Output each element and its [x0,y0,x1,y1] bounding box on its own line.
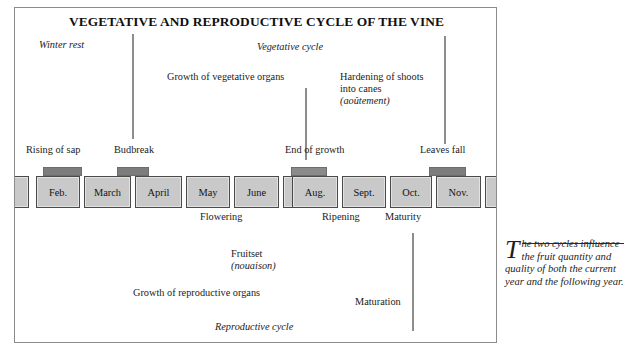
label-hardening-line-1: Hardening of shoots [340,71,424,83]
tab-end-of-growth [291,167,327,176]
month-box-march[interactable]: March [84,176,131,208]
label-growth-of-vegetative-organs: Growth of vegetative organs [167,71,284,83]
pull-quote: T he two cycles influence the fruit quan… [505,238,625,288]
figure-frame: VEGETATIVE AND REPRODUCTIVE CYCLE OF THE… [14,7,497,343]
label-maturation: Maturation [355,296,401,308]
month-box-aug[interactable]: Aug. [292,176,338,208]
pull-quote-rule [522,243,624,244]
month-box-partial-right[interactable] [485,176,497,208]
tab-budbreak [117,167,149,176]
label-ripening: Ripening [322,211,360,223]
label-budbreak: Budbreak [114,144,154,156]
label-flowering: Flowering [200,211,242,223]
month-box-feb[interactable]: Feb. [36,176,80,208]
month-timeline: Feb. March April May June July Aug. Sept… [15,176,497,208]
pull-quote-text: he two cycles influence the fruit quanti… [505,238,624,287]
label-fruitset-nouaison: (nouaison) [231,260,276,272]
month-box-nov[interactable]: Nov. [436,176,481,208]
label-winter-rest: Winter rest [39,39,84,51]
month-box-sept[interactable]: Sept. [342,176,386,208]
month-box-june[interactable]: June [234,176,279,208]
connector-leaves-fall [444,36,446,144]
tab-rising-of-sap [43,167,82,176]
label-leaves-fall: Leaves fall [420,144,465,156]
connector-budbreak [132,34,134,139]
label-fruitset: Fruitset [231,248,262,260]
label-rising-of-sap: Rising of sap [26,144,80,156]
label-reproductive-cycle: Reproductive cycle [215,321,293,333]
tab-leaves-fall [429,167,466,176]
figure-title: VEGETATIVE AND REPRODUCTIVE CYCLE OF THE… [15,14,497,30]
label-vegetative-cycle: Vegetative cycle [257,41,323,53]
label-end-of-growth: End of growth [285,144,344,156]
month-box-may[interactable]: May [186,176,230,208]
pull-quote-dropcap: T [505,238,520,260]
label-hardening-line-3-aoutement: (aoûtement) [340,95,390,107]
vine-cycle-diagram: VEGETATIVE AND REPRODUCTIVE CYCLE OF THE… [0,0,632,356]
label-maturity: Maturity [385,211,421,223]
label-hardening-line-2: into canes [340,83,381,95]
month-box-april[interactable]: April [135,176,182,208]
month-box-oct[interactable]: Oct. [390,176,432,208]
connector-maturation [412,233,414,331]
month-box-partial-left[interactable] [14,176,29,208]
label-growth-of-reproductive-organs: Growth of reproductive organs [133,287,260,299]
